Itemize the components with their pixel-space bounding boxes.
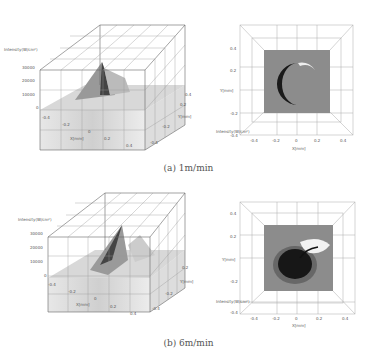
y-tick: -0.4 [150, 140, 158, 145]
x-tick: 0.4 [130, 311, 136, 316]
y-axis-label: Y[mm] [222, 257, 235, 262]
x-axis-label: X[mm] [292, 146, 306, 151]
surface-plot-b-graphic [0, 180, 195, 330]
z-tick: 10000 [22, 92, 35, 97]
x-tick: 0.2 [316, 316, 322, 321]
x-tick: 0.2 [110, 304, 116, 309]
y-tick: -0.2 [230, 279, 238, 284]
y-tick: -0.2 [162, 124, 170, 129]
x-tick: 0.4 [126, 143, 132, 148]
x-axis-label: X[mm] [70, 136, 84, 141]
x-tick: 0.2 [104, 136, 110, 141]
z-tick: 0 [44, 273, 47, 278]
x-tick: -0.2 [272, 138, 280, 143]
top-view-a: Y[mm] 0.4 0.2 -0.2 -0.4 Intensity(W/cm²)… [200, 10, 377, 160]
y-tick: 0.2 [182, 265, 188, 270]
x-tick: -0.4 [42, 115, 50, 120]
x-tick: 0.4 [340, 138, 346, 143]
y-tick: 0.4 [230, 46, 236, 51]
z-tick: 0 [36, 105, 39, 110]
y-axis-label: Y[mm] [180, 279, 193, 284]
y-tick: -0.4 [152, 306, 160, 311]
x-tick: 0.4 [342, 316, 348, 321]
x-tick: -0.4 [48, 282, 56, 287]
x-tick: -0.2 [62, 122, 70, 127]
x-tick: -0.2 [68, 289, 76, 294]
surface-plot-a: Intensity(W/cm²) 30000 20000 10000 0 -0.… [0, 0, 195, 160]
caption-b: (b) 6m/min [0, 338, 377, 348]
y-tick: -0.2 [165, 291, 173, 296]
y-axis-label: Y[mm] [220, 88, 233, 93]
x-tick: 0 [88, 129, 91, 134]
x-tick: -0.4 [250, 316, 258, 321]
z-axis-label: Intensity(W/cm²) [18, 217, 52, 222]
top-view-b: Y[mm] 0.4 0.2 -0.2 -0.4 Intensity(W/cm²)… [200, 185, 377, 330]
x-tick: 0 [94, 296, 97, 301]
x-tick: 0 [295, 316, 298, 321]
z-tick: 30000 [30, 231, 43, 236]
z-tick: 30000 [22, 65, 35, 70]
x-tick: 0 [295, 138, 298, 143]
corner-label: Intensity(W/cm²) [216, 299, 250, 304]
x-tick: -0.4 [250, 138, 258, 143]
y-tick: 0.4 [230, 211, 236, 216]
z-tick: 20000 [30, 245, 43, 250]
z-tick: 20000 [22, 78, 35, 83]
z-tick: 10000 [30, 259, 43, 264]
x-axis-label: X[mm] [292, 323, 306, 328]
top-view-a-graphic [200, 10, 377, 160]
x-axis-label: X[mm] [76, 302, 90, 307]
x-tick: 0.2 [314, 138, 320, 143]
z-axis-label: Intensity(W/cm²) [4, 47, 38, 52]
x-tick: -0.2 [272, 316, 280, 321]
y-axis-label: Y[mm] [178, 114, 191, 119]
y-tick: 0.4 [185, 92, 191, 97]
caption-a: (a) 1m/min [0, 163, 377, 173]
y-tick: 0.2 [230, 68, 236, 73]
y-tick: -0.4 [230, 310, 238, 315]
y-tick: 0.2 [180, 102, 186, 107]
y-tick: -0.2 [230, 111, 238, 116]
surface-plot-b: Intensity(W/cm²) 30000 20000 10000 0 -0.… [0, 180, 195, 330]
corner-label: Intensity(W/cm²) [216, 129, 250, 134]
y-tick: 0.2 [230, 234, 236, 239]
